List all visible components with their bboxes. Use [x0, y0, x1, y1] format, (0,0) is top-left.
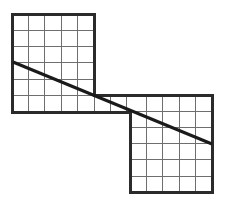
figure-container — [0, 0, 226, 206]
geometry-figure — [0, 0, 226, 206]
